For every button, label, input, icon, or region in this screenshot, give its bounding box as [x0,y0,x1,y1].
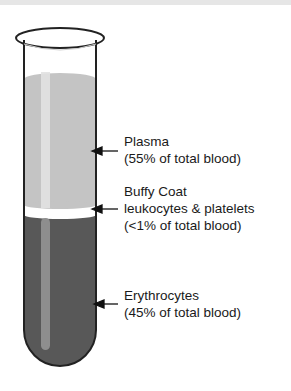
buffy-coat-label: Buffy Coat leukocytes & platelets (<1% o… [124,183,255,234]
buffy-coat-name: Buffy Coat [124,183,255,200]
buffy-coat-desc: leukocytes & platelets [124,200,255,217]
plasma-label: Plasma (55% of total blood) [124,133,241,167]
plasma-layer [24,79,96,211]
erythrocytes-label: Erythrocytes (45% of total blood) [124,287,241,321]
buffy-coat-percent: (<1% of total blood) [124,217,255,234]
erythrocytes-layer [24,215,96,375]
erythrocytes-name: Erythrocytes [124,287,241,304]
erythrocytes-percent: (45% of total blood) [124,304,241,321]
plasma-name: Plasma [124,133,241,150]
plasma-percent: (55% of total blood) [124,150,241,167]
